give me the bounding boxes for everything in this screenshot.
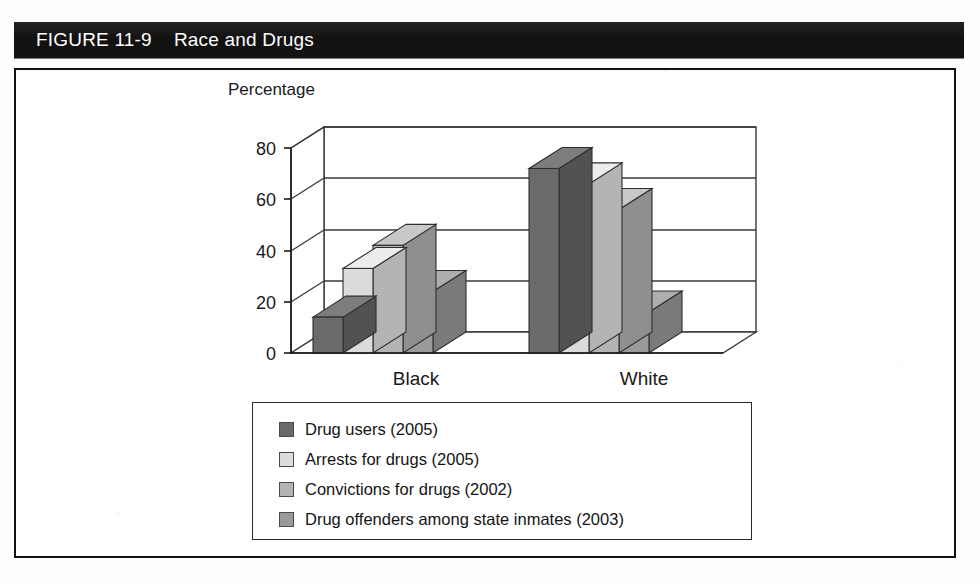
- legend-swatch-convictions: [279, 482, 294, 497]
- legend-swatch-arrests: [279, 452, 294, 467]
- y-axis-title: Percentage: [228, 80, 315, 99]
- y-tick-label-80: 80: [256, 139, 276, 159]
- y-tick-label-60: 60: [256, 190, 276, 210]
- legend-label-convictions: Convictions for drugs (2002): [305, 481, 512, 498]
- figure-page: FIGURE 11-9Race and Drugs Percentage: [0, 0, 980, 584]
- legend-swatch-drug-users: [279, 422, 294, 437]
- bar-front-face: [313, 317, 343, 353]
- category-label-black: Black: [393, 368, 440, 389]
- bar-side-face: [559, 148, 592, 354]
- figure-frame: Percentage: [14, 68, 956, 558]
- bar-side-face: [403, 224, 436, 353]
- bar-side-face: [589, 163, 622, 353]
- legend-label-inmates: Drug offenders among state inmates (2003…: [305, 511, 624, 528]
- legend-item[interactable]: Drug offenders among state inmates (2003…: [279, 504, 751, 534]
- bar-side-face: [619, 189, 652, 354]
- legend-label-arrests: Arrests for drugs (2005): [305, 451, 479, 468]
- bar-white-series-1: [529, 148, 592, 354]
- bar-front-face: [529, 169, 559, 354]
- chart-legend: Drug users (2005) Arrests for drugs (200…: [252, 402, 752, 540]
- y-axis: [284, 148, 291, 353]
- legend-item[interactable]: Arrests for drugs (2005): [279, 444, 751, 474]
- figure-number: FIGURE 11-9: [36, 29, 152, 50]
- legend-swatch-inmates: [279, 512, 294, 527]
- y-tick-label-20: 20: [256, 293, 276, 313]
- figure-title: FIGURE 11-9Race and Drugs: [36, 29, 314, 51]
- y-tick-labels: 80 60 40 20 0: [256, 139, 276, 364]
- y-tick-label-0: 0: [266, 344, 276, 364]
- category-label-white: White: [620, 368, 669, 389]
- legend-item[interactable]: Convictions for drugs (2002): [279, 474, 751, 504]
- legend-item[interactable]: Drug users (2005): [279, 414, 751, 444]
- figure-caption: Race and Drugs: [174, 29, 314, 50]
- y-tick-label-40: 40: [256, 242, 276, 262]
- figure-title-banner: FIGURE 11-9Race and Drugs: [14, 22, 964, 58]
- legend-label-drug-users: Drug users (2005): [305, 421, 438, 438]
